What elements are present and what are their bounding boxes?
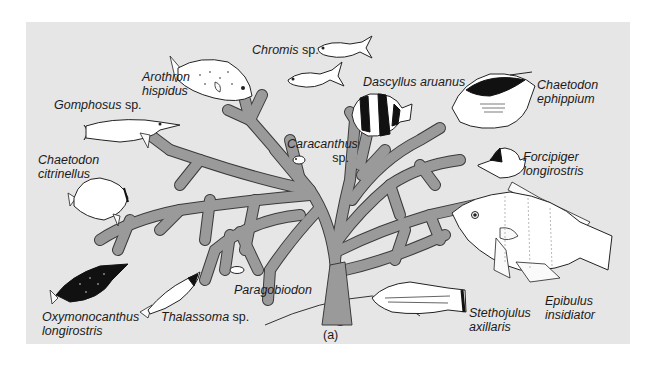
label-chaetodon-ephippium: Chaetodon ephippium bbox=[537, 78, 598, 106]
label-suffix: sp. bbox=[287, 151, 357, 165]
label-oxymonocanthus-longirostris: Oxymonocanthus longirostris bbox=[42, 310, 139, 338]
label-suffix: sp. bbox=[229, 310, 249, 324]
epibulus-fish-icon bbox=[452, 182, 612, 282]
label-species: ephippium bbox=[537, 92, 595, 106]
label-genus: Arothron bbox=[142, 70, 190, 84]
label-thalassoma: Thalassoma sp. bbox=[161, 310, 249, 324]
label-genus: Chaetodon bbox=[537, 78, 598, 92]
chaetodon-citrinellus-icon bbox=[68, 178, 128, 226]
label-epibulus-insidiator: Epibulus insidiator bbox=[545, 294, 595, 322]
label-text: Paragobiodon bbox=[234, 283, 312, 297]
label-chromis: Chromis sp. bbox=[252, 43, 319, 57]
label-dascyllus-aruanus: Dascyllus aruanus bbox=[363, 75, 465, 89]
label-species: longirostris bbox=[523, 164, 583, 178]
label-arothron-hispidus: Arothron hispidus bbox=[142, 70, 190, 98]
label-genus: Oxymonocanthus bbox=[42, 310, 139, 324]
label-species: insidiator bbox=[545, 308, 595, 322]
label-species: hispidus bbox=[142, 84, 188, 98]
forcipiger-fish-icon bbox=[478, 148, 526, 178]
label-suffix: sp. bbox=[121, 98, 141, 112]
label-stethojulus-axillaris: Stethojulus axillaris bbox=[469, 306, 531, 334]
label-paragobiodon: Paragobiodon bbox=[234, 283, 312, 297]
label-caracanthus: Caracanthus sp. bbox=[287, 137, 357, 165]
label-genus: Chaetodon bbox=[38, 153, 99, 167]
label-forcipiger-longirostris: Forcipiger longirostris bbox=[523, 150, 583, 178]
stethojulus-fish-icon bbox=[372, 282, 466, 314]
label-species: longirostris bbox=[42, 324, 102, 338]
label-genus: Forcipiger bbox=[523, 150, 579, 164]
label-genus: Stethojulus bbox=[469, 306, 531, 320]
label-genus: Epibulus bbox=[545, 294, 593, 308]
oxymonocanthus-fish-icon bbox=[50, 264, 128, 304]
label-chaetodon-citrinellus: Chaetodon citrinellus bbox=[38, 153, 99, 181]
label-gomphosus: Gomphosus sp. bbox=[54, 98, 142, 112]
label-species: citrinellus bbox=[38, 167, 90, 181]
label-genus: Thalassoma bbox=[161, 310, 229, 324]
label-species: axillaris bbox=[469, 320, 511, 334]
label-suffix: sp. bbox=[299, 43, 319, 57]
label-text: Dascyllus aruanus bbox=[363, 75, 465, 89]
paragobiodon-fish-icon bbox=[230, 267, 244, 274]
label-genus: Chromis bbox=[252, 43, 299, 57]
dascyllus-fish-icon bbox=[352, 94, 412, 136]
panel-label: (a) bbox=[323, 328, 338, 342]
label-genus: Caracanthus bbox=[287, 137, 357, 151]
label-genus: Gomphosus bbox=[54, 98, 121, 112]
